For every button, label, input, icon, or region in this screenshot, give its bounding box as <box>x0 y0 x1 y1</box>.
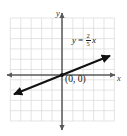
origin-point <box>60 73 64 77</box>
y-axis-label: y <box>56 9 60 18</box>
equation-variable: x <box>92 36 96 45</box>
origin-coordinate-label: (0, 0) <box>65 75 86 85</box>
coordinate-plane-svg <box>0 0 127 136</box>
equation-operator: = <box>78 36 83 45</box>
fraction-denominator: 5 <box>86 41 90 48</box>
equation-label: y = 2 5 x <box>72 33 96 47</box>
equation-lhs: y <box>72 36 76 45</box>
equation-fraction: 2 5 <box>86 33 91 47</box>
fraction-numerator: 2 <box>86 33 90 40</box>
graph-figure: y = 2 5 x (0, 0) x y <box>0 0 127 136</box>
x-axis-label: x <box>117 74 121 83</box>
